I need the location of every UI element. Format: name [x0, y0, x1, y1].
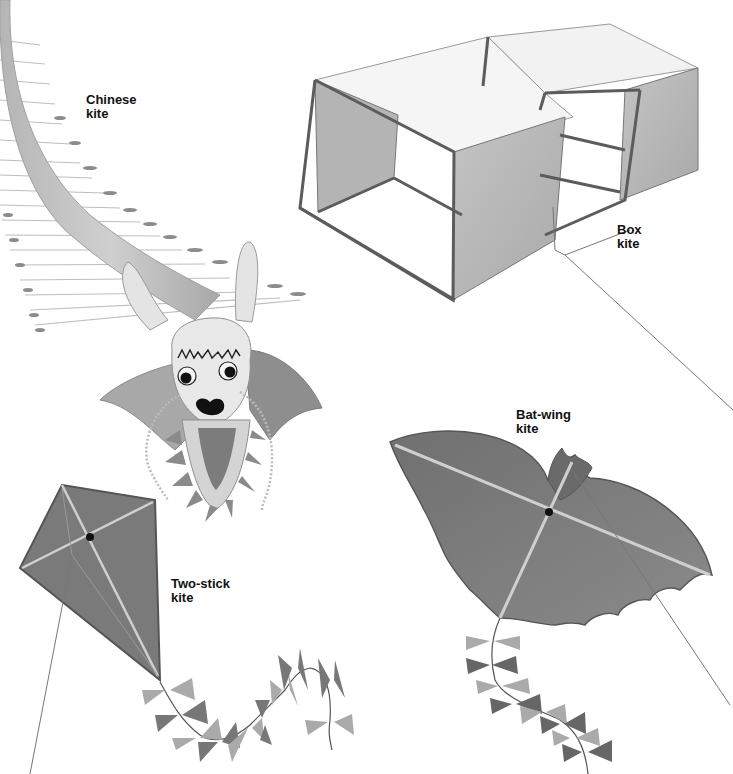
bat-wing-sail [390, 431, 712, 625]
kite-illustration: Chinese kite Box kite Bat-wing kite Two-… [0, 0, 733, 774]
label-chinese-line1: Chinese [86, 93, 137, 107]
dragon-fin-right [245, 350, 322, 440]
label-chinese-line2: kite [86, 107, 137, 121]
two-stick-kite [20, 485, 354, 774]
label-box-line1: Box [617, 223, 642, 237]
two-stick-sail [20, 485, 160, 680]
label-two-stick-line1: Two-stick [171, 577, 230, 591]
label-two-stick-line2: kite [171, 591, 230, 605]
label-two-stick-kite: Two-stick kite [171, 577, 230, 605]
box-kite-string [553, 207, 733, 410]
dragon-body [0, 0, 220, 320]
box-kite [300, 24, 733, 410]
dragon-rib-tips [3, 116, 306, 332]
label-bat-wing-kite: Bat-wing kite [516, 408, 571, 436]
box-back-side [620, 68, 698, 200]
label-bat-wing-line2: kite [516, 422, 571, 436]
label-bat-wing-line1: Bat-wing [516, 408, 571, 422]
bat-spar-joint [545, 508, 553, 516]
bat-kite-tail-bows [466, 636, 612, 762]
two-stick-spar-joint [86, 533, 94, 541]
bat-wing-kite [390, 431, 730, 774]
two-stick-tail-line [160, 668, 332, 750]
label-chinese-kite: Chinese kite [86, 93, 137, 121]
label-box-line2: kite [617, 237, 642, 251]
dragon-horn-right [236, 242, 258, 322]
chinese-dragon-kite [0, 0, 322, 522]
label-box-kite: Box kite [617, 223, 642, 251]
